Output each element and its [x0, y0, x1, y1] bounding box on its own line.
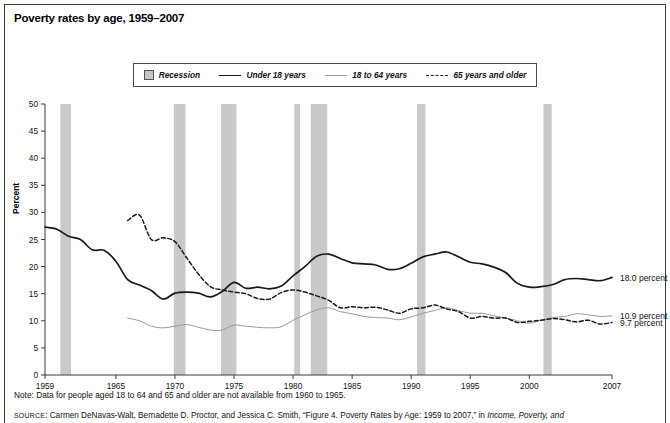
x-axis-tick-label: 1995 — [461, 381, 480, 391]
recession-band — [543, 104, 551, 375]
chart-plot-area: 0510152025303540455019591965197019751980… — [0, 0, 670, 423]
y-axis-tick-label: 30 — [29, 207, 39, 217]
series-end-label: 18.0 percent — [620, 273, 668, 283]
source-rest: : Carmen DeNavas-Walt, Bernadette D. Pro… — [45, 411, 487, 420]
source-italic: Income, Poverty, and — [487, 411, 564, 420]
recession-band — [174, 104, 186, 375]
series-line — [45, 227, 612, 299]
series-line — [128, 214, 612, 324]
y-axis-tick-label: 35 — [29, 180, 39, 190]
y-axis-tick-label: 15 — [29, 289, 39, 299]
x-axis-tick-label: 2007 — [603, 381, 622, 391]
y-axis-tick-label: 25 — [29, 235, 39, 245]
y-axis-tick-label: 0 — [33, 370, 38, 380]
y-axis-tick-label: 45 — [29, 126, 39, 136]
source-prefix: SOURCE — [14, 412, 45, 419]
chart-canvas: 0510152025303540455019591965197019751980… — [0, 0, 670, 423]
series-end-label: 9.7 percent — [620, 318, 663, 328]
series-line — [128, 308, 612, 331]
chart-source: SOURCE: Carmen DeNavas-Walt, Bernadette … — [14, 411, 564, 420]
chart-page: Poverty rates by age, 1959–2007 Recessio… — [0, 0, 670, 423]
recession-band — [311, 104, 328, 375]
y-axis-tick-label: 10 — [29, 316, 39, 326]
y-axis-tick-label: 20 — [29, 262, 39, 272]
x-axis-tick-label: 1985 — [343, 381, 362, 391]
y-axis-tick-label: 40 — [29, 153, 39, 163]
recession-band — [60, 104, 71, 375]
chart-note: Note: Data for people aged 18 to 64 and … — [14, 390, 346, 400]
recession-band — [221, 104, 236, 375]
y-axis-tick-label: 5 — [33, 343, 38, 353]
recession-band — [294, 104, 300, 375]
x-axis-tick-label: 2000 — [520, 381, 539, 391]
y-axis-tick-label: 50 — [29, 99, 39, 109]
x-axis-tick-label: 1990 — [402, 381, 421, 391]
recession-band — [417, 104, 425, 375]
